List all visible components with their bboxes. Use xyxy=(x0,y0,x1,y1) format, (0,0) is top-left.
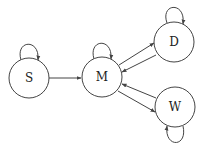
node-w: W xyxy=(155,87,195,127)
edge-w-self-loop xyxy=(167,126,184,143)
node-d-label: D xyxy=(169,35,179,49)
node-w-label: W xyxy=(169,100,182,114)
state-diagram: S M D W xyxy=(0,0,204,156)
node-m: M xyxy=(82,57,122,97)
node-m-label: M xyxy=(96,70,108,84)
edge-m-to-d xyxy=(119,43,154,65)
edge-m-to-w xyxy=(118,91,155,112)
node-s: S xyxy=(9,58,49,98)
edge-d-self-loop xyxy=(166,7,183,24)
node-d: D xyxy=(154,22,194,62)
node-s-label: S xyxy=(25,71,33,85)
edge-d-to-m xyxy=(122,55,156,72)
